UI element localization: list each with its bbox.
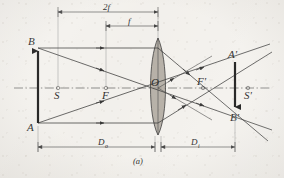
dimension-image-distance: D i bbox=[161, 112, 235, 152]
optics-figure-page: 2f f bbox=[0, 0, 284, 178]
label-A-prime: A' bbox=[227, 48, 238, 60]
dimension-label-Di-base: D bbox=[190, 137, 198, 147]
ray-diagram-svg: 2f f bbox=[0, 0, 284, 178]
figure-caption: (a) bbox=[133, 156, 143, 166]
label-F: F bbox=[101, 89, 109, 101]
label-S: S bbox=[54, 89, 60, 101]
label-B: B bbox=[28, 35, 35, 47]
label-S-prime: S' bbox=[244, 89, 253, 101]
dimension-label-f: f bbox=[128, 16, 132, 26]
dimension-label-Di-sub: i bbox=[198, 143, 200, 149]
label-A: A bbox=[26, 121, 34, 133]
dimension-label-Do-base: D bbox=[97, 137, 105, 147]
label-O: O bbox=[151, 76, 159, 88]
dimension-label-2f: 2f bbox=[103, 2, 112, 12]
dimension-label-Do-sub: o bbox=[105, 143, 108, 149]
dimension-2f: 2f bbox=[58, 2, 158, 86]
label-F-prime: F' bbox=[196, 75, 207, 87]
dimension-object-distance: D o bbox=[38, 126, 155, 152]
